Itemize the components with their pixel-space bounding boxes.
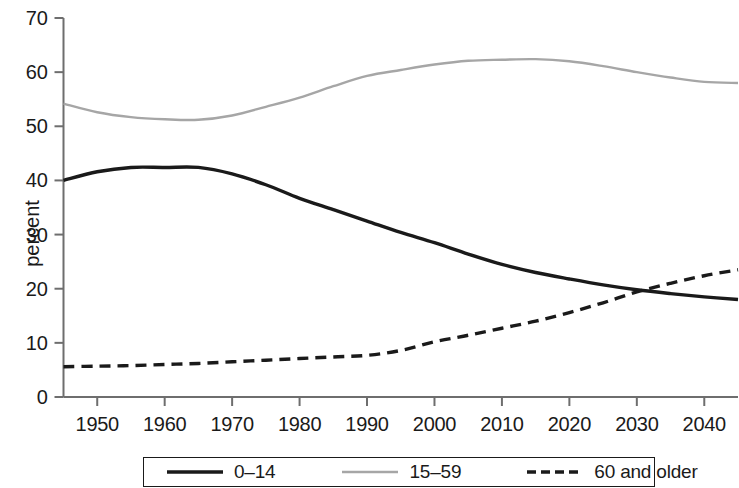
x-tick-label: 1950 [76,413,119,436]
y-tick-label: 0 [0,386,48,409]
legend-label: 60 and older [594,461,697,483]
y-tick-label: 20 [0,277,48,300]
x-tick-label: 1980 [278,413,321,436]
x-tick-label: 2030 [615,413,658,436]
x-tick-label: 2020 [548,413,591,436]
legend-swatch-icon [167,465,223,479]
x-tick-label: 1990 [345,413,388,436]
legend-entry-0: 0–14 [167,458,275,486]
population-age-structure-chart: percent 010203040506070 1950196019701980… [0,0,739,488]
y-tick-label: 50 [0,115,48,138]
x-tick-label: 1970 [210,413,253,436]
legend-swatch-icon [527,465,583,479]
legend-label: 15–59 [409,461,461,483]
chart-legend: 0–1415–5960 and older [143,457,655,487]
y-tick-label: 30 [0,223,48,246]
series-line-0 [64,167,739,300]
series-line-2 [64,270,739,367]
y-tick-label: 10 [0,331,48,354]
x-tick-label: 2010 [480,413,523,436]
x-tick-label: 2000 [413,413,456,436]
series-line-1 [64,59,739,120]
x-tick-label: 2040 [683,413,726,436]
y-tick-label: 60 [0,61,48,84]
y-tick-label: 70 [0,7,48,30]
x-tick-label: 1960 [143,413,186,436]
legend-entry-2: 60 and older [527,458,697,486]
legend-entry-1: 15–59 [342,458,461,486]
legend-label: 0–14 [234,461,275,483]
legend-swatch-icon [342,465,398,479]
y-tick-label: 40 [0,169,48,192]
